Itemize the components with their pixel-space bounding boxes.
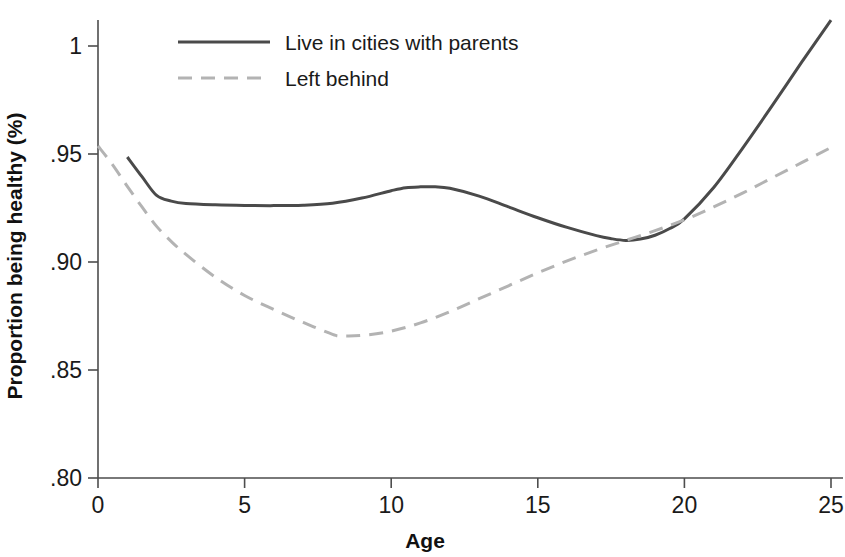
x-tick-label: 15 xyxy=(525,492,551,518)
x-tick-label: 10 xyxy=(378,492,404,518)
series-line-2 xyxy=(98,146,831,336)
x-tick-label: 0 xyxy=(92,492,105,518)
y-axis-ticks: .80.85.90.951 xyxy=(50,33,98,491)
line-chart-svg: .80.85.90.951 0510152025 Age Proportion … xyxy=(0,0,845,557)
data-series-group xyxy=(98,20,831,336)
legend: Live in cities with parentsLeft behind xyxy=(178,31,518,90)
y-tick-label: .90 xyxy=(50,249,82,275)
y-axis-title: Proportion being healthy (%) xyxy=(3,113,26,400)
axes-group xyxy=(98,20,843,478)
chart-container: .80.85.90.951 0510152025 Age Proportion … xyxy=(0,0,845,557)
x-tick-label: 25 xyxy=(818,492,844,518)
y-tick-label: .80 xyxy=(50,465,82,491)
legend-label-1: Live in cities with parents xyxy=(285,31,518,54)
x-axis-ticks: 0510152025 xyxy=(92,478,844,518)
x-tick-label: 5 xyxy=(238,492,251,518)
x-tick-label: 20 xyxy=(672,492,698,518)
y-tick-label: .95 xyxy=(50,141,82,167)
y-tick-label: .85 xyxy=(50,357,82,383)
y-tick-label: 1 xyxy=(69,33,82,59)
legend-label-2: Left behind xyxy=(285,67,389,90)
x-axis-title: Age xyxy=(405,529,445,552)
